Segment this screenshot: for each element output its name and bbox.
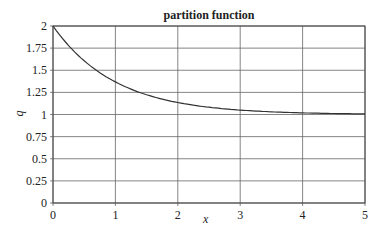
y-tick-label: 1.25	[26, 85, 47, 99]
x-tick-label: 5	[362, 208, 368, 222]
x-tick-label: 2	[175, 208, 181, 222]
x-tick-label: 3	[237, 208, 243, 222]
y-tick-label: 2	[41, 19, 47, 33]
plot-area: 01234500.250.50.7511.251.51.752	[0, 0, 386, 239]
y-tick-label: 1.5	[32, 63, 47, 77]
y-tick-label: 0.5	[32, 152, 47, 166]
x-tick-label: 4	[300, 208, 306, 222]
y-tick-label: 0.25	[26, 174, 47, 188]
x-axis-label: x	[203, 212, 208, 227]
x-tick-label: 0	[50, 208, 56, 222]
chart: partition function 01234500.250.50.7511.…	[0, 0, 386, 239]
y-axis-label: q	[12, 111, 27, 117]
y-tick-label: 1.75	[26, 41, 47, 55]
x-tick-label: 1	[112, 208, 118, 222]
y-tick-label: 1	[41, 108, 47, 122]
y-tick-label: 0	[41, 196, 47, 210]
y-tick-label: 0.75	[26, 130, 47, 144]
